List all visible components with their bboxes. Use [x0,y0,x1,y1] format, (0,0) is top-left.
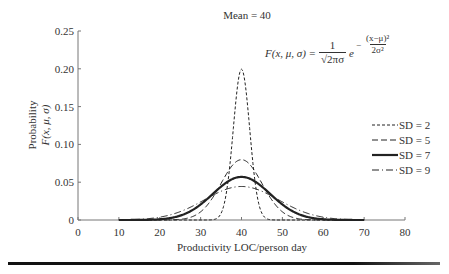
curve-sd-5 [119,160,364,220]
curve-sd-9 [119,186,364,219]
x-tick-label: 0 [75,226,81,238]
y-axis-label: Probability F(x, μ, σ) [26,100,52,149]
formula-numerator: 1 [328,40,338,52]
y-tick-label: 0 [69,214,75,226]
formula-exponent: − (x−μ)² 2σ² [356,34,394,55]
y-axis-label-line2: F(x, μ, σ) [39,104,52,146]
y-tick-label: 0.15 [55,101,75,113]
formula-exp-numerator: (x−μ)² [364,34,391,43]
curve-sd-2 [119,69,364,220]
x-tick-label: 80 [400,226,412,238]
y-tick-label: 0.10 [55,138,75,150]
formula-fraction: 1 √2πσ [319,40,346,65]
bottom-rule [8,262,440,265]
x-tick-label: 30 [195,226,207,238]
y-axis-label-line1: Probability [26,100,38,149]
x-tick-label: 10 [113,226,125,238]
curves [119,69,364,220]
formula-exp-denominator: 2σ² [370,44,386,55]
x-tick-label: 70 [359,226,371,238]
x-tick-label: 50 [277,226,289,238]
legend-label: SD = 5 [399,134,431,146]
formula-exp-sign: − [356,40,361,50]
formula-denominator: √2πσ [319,52,346,66]
y-tick-label: 0.20 [55,63,75,75]
y-tick-label: 0.05 [55,176,75,188]
y-tick-label: 0.25 [55,25,75,37]
legend-label: SD = 7 [399,149,431,161]
x-tick-label: 20 [154,226,166,238]
formula-e: e [349,47,354,59]
formula-annotation: F(x, μ, σ) = 1 √2πσ e − (x−μ)² 2σ² [265,40,394,65]
x-axis-label: Productivity LOC/person day [177,241,308,253]
x-tick-label: 60 [318,226,330,238]
legend: SD = 2SD = 5SD = 7SD = 9 [372,119,431,176]
legend-label: SD = 2 [399,119,430,131]
chart-title: Mean = 40 [223,9,271,21]
curve-sd-7 [119,177,364,220]
formula-lhs: F(x, μ, σ) = [265,47,316,59]
legend-label: SD = 9 [399,164,431,176]
x-tick-label: 40 [236,226,248,238]
